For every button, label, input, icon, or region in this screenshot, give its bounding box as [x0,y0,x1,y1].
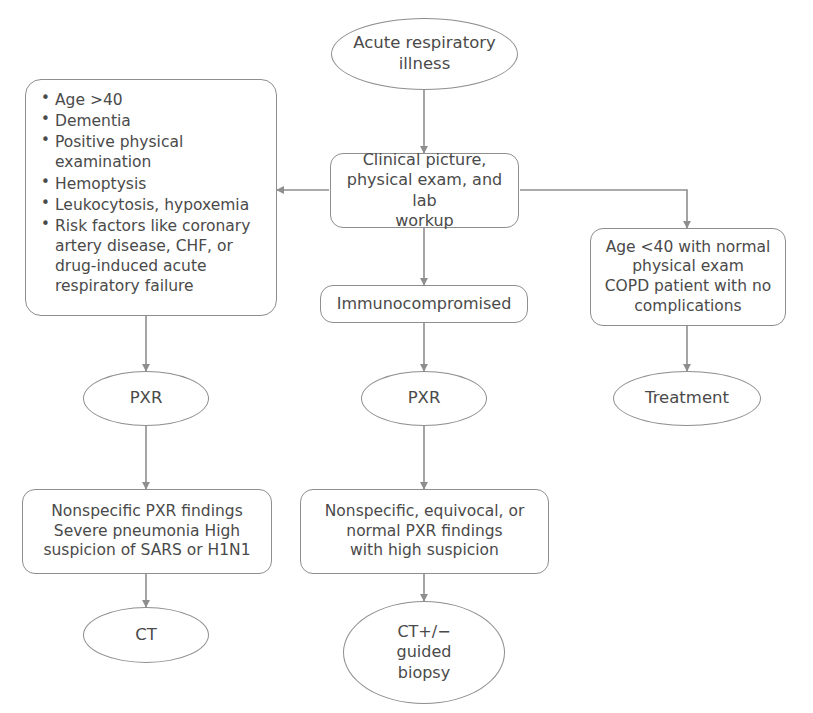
flowchart-canvas: Acute respiratory illness Clinical pictu… [0,0,813,713]
node-findings-left[interactable]: Nonspecific PXR findings Severe pneumoni… [22,489,272,574]
node-label: Nonspecific PXR findings Severe pneumoni… [37,502,256,561]
list-item: Risk factors like coronary artery diseas… [40,216,266,297]
node-label: CT+/− guided biopsy [391,622,458,682]
node-low-risk[interactable]: Age <40 with normal physical exam COPD p… [590,228,786,326]
node-label: Clinical picture, physical exam, and lab… [331,150,518,231]
node-pxr-middle[interactable]: PXR [361,371,487,426]
node-pxr-left[interactable]: PXR [83,371,209,426]
list-item: Positive physical examination [40,132,266,172]
node-ct-left[interactable]: CT [83,607,209,663]
node-label: PXR [402,388,447,409]
node-ct-middle[interactable]: CT+/− guided biopsy [343,601,505,704]
node-label: Acute respiratory illness [347,33,502,75]
node-treatment[interactable]: Treatment [613,371,761,426]
node-label: Age <40 with normal physical exam COPD p… [599,238,777,316]
risk-factor-list: Age >40 Dementia Positive physical exami… [40,90,266,296]
node-immunocompromised[interactable]: Immunocompromised [320,285,528,323]
node-label: CT [129,625,163,646]
node-risk-factors[interactable]: Age >40 Dementia Positive physical exami… [25,79,277,316]
edge-clinical-to-lowrisk [520,190,687,228]
node-label: Treatment [639,388,735,409]
list-item: Hemoptysis [40,174,266,194]
list-item: Dementia [40,111,266,131]
node-label: PXR [124,388,169,409]
node-acute-respiratory-illness[interactable]: Acute respiratory illness [331,18,518,90]
list-item: Leukocytosis, hypoxemia [40,195,266,215]
node-clinical-picture[interactable]: Clinical picture, physical exam, and lab… [330,153,519,228]
node-label: Nonspecific, equivocal, or normal PXR fi… [319,502,531,561]
list-item: Age >40 [40,90,266,110]
node-findings-middle[interactable]: Nonspecific, equivocal, or normal PXR fi… [300,489,549,574]
node-label: Immunocompromised [331,294,518,314]
